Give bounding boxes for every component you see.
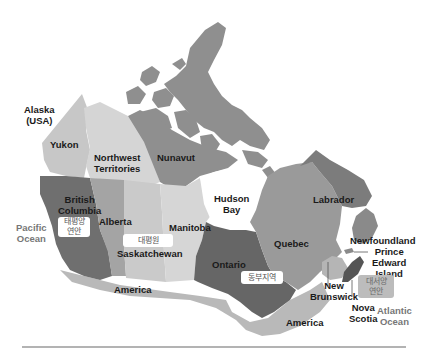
nb-text-1: New [310, 280, 358, 291]
nwt-label: Northwest Territories [94, 152, 140, 174]
pacific-text-1: Pacific [16, 222, 47, 233]
ns-text-1: Nova [349, 302, 378, 313]
atlantic-coast-region-box: 대서양 연안 [358, 275, 394, 298]
hudson-text-2: Bay [214, 204, 249, 215]
atlantic-ocean-label: Atlantic Ocean [377, 305, 412, 327]
alaska-label: Alaska (USA) [24, 104, 55, 126]
british-columbia-label: British Columbia [58, 194, 101, 216]
atlantic-text-2: Ocean [377, 316, 412, 327]
new-brunswick-label: New Brunswick [310, 280, 358, 302]
ontario-label: Ontario [212, 259, 246, 270]
newfoundland-label: Newfoundland [350, 235, 415, 246]
alberta-label: Alberta [99, 216, 132, 227]
pacific-coast-text-1: 태평양 [64, 217, 85, 227]
atlantic-coast-text-2: 연안 [369, 287, 383, 297]
yukon-label: Yukon [50, 139, 79, 150]
atlantic-text-1: Atlantic [377, 305, 412, 316]
pei-text-1: Prince [372, 246, 406, 257]
saskatchewan-region [124, 180, 166, 282]
nova-scotia-label: Nova Scotia [349, 302, 378, 324]
pacific-coast-region-box: 태평양 연안 [58, 217, 90, 237]
hudson-bay-label: Hudson Bay [214, 193, 249, 215]
quebec-label: Quebec [274, 238, 309, 249]
nwt-text-1: Northwest [94, 152, 140, 163]
pacific-coast-text-2: 연안 [67, 227, 81, 237]
manitoba-label: Manitoba [169, 222, 211, 233]
hudson-text-1: Hudson [214, 193, 249, 204]
america-east-label: America [286, 317, 324, 328]
labrador-label: Labrador [313, 194, 354, 205]
alaska-text: Alaska [24, 104, 55, 115]
nunavut-label: Nunavut [157, 152, 195, 163]
pacific-text-2: Ocean [16, 233, 47, 244]
pei-text-2: Edward [372, 257, 406, 268]
great-plains-region-box: 대평원 [123, 234, 173, 247]
america-west-label: America [114, 284, 152, 295]
bc-text-1: British [58, 194, 101, 205]
atlantic-coast-text-1: 대서양 [366, 277, 387, 287]
alaska-sub-text: (USA) [24, 115, 55, 126]
pei-region [344, 248, 354, 254]
ns-text-2: Scotia [349, 313, 378, 324]
bc-text-2: Columbia [58, 205, 101, 216]
eastern-region-box: 동부지역 [241, 271, 283, 284]
nb-text-2: Brunswick [310, 291, 358, 302]
nwt-text-2: Territories [94, 163, 140, 174]
saskatchewan-label: Saskatchewan [117, 248, 182, 259]
pacific-ocean-label: Pacific Ocean [16, 222, 47, 244]
